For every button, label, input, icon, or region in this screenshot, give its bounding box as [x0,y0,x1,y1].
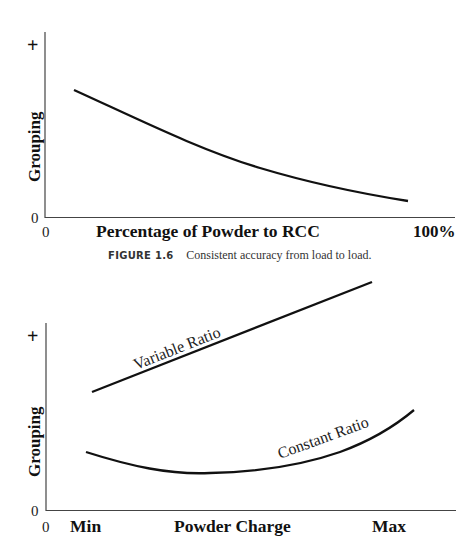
top-y-zero-label: 0 [31,210,39,226]
bottom-x-min-label: Min [70,516,101,536]
top-y-plus-label: + [27,34,38,56]
top-x-axis-label: Percentage of Powder to RCC [96,221,320,241]
top-chart-axes [45,32,455,218]
top-y-axis-label: Grouping [25,111,44,182]
top-chart: + 0 0 Grouping Percentage of Powder to R… [0,0,475,543]
figure-caption-text: Consistent accuracy from load to load. [186,248,371,262]
variable-ratio-label: Variable Ratio [131,323,223,373]
bottom-x-axis-label: Powder Charge [174,516,291,536]
figure-caption: FIGURE 1.6 Consistent accuracy from load… [108,248,408,263]
constant-ratio-label: Constant Ratio [275,413,371,462]
bottom-x-max-label: Max [372,516,406,536]
bottom-y-axis-label: Grouping [25,406,44,477]
top-x-max-label: 100% [413,222,456,241]
bottom-y-plus-label: + [27,325,38,347]
bottom-x-zero-label: 0 [42,519,50,535]
top-x-zero-label: 0 [42,224,50,240]
figure-number: FIGURE 1.6 [108,250,174,261]
variable-ratio-line [92,282,372,392]
top-curve [74,90,408,201]
bottom-y-zero-label: 0 [31,503,39,519]
bottom-chart-axes [46,323,456,511]
